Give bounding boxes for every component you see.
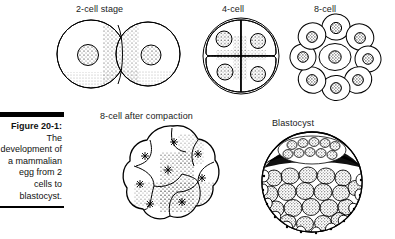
stage-label-two-cell: 2-cell stage — [76, 4, 123, 14]
illustration-blastocyst — [258, 128, 370, 236]
stage-label-blastocyst: Blastocyst — [272, 118, 314, 128]
caption-rule-bottom — [0, 206, 64, 208]
illustration-four-cell — [200, 12, 282, 100]
caption-text: Figure 20-1: The development of a mammal… — [0, 117, 64, 205]
illustration-eight-cell — [290, 12, 382, 102]
figure-number-label: Figure 20-1: — [0, 121, 62, 133]
illustration-eight-cell-after-compaction — [120, 122, 226, 230]
stage-label-eight-cell-compaction: 8-cell after compaction — [100, 111, 193, 121]
illustration-two-cell-stage — [55, 14, 183, 94]
figure-caption-block: Figure 20-1: The development of a mammal… — [0, 112, 64, 208]
figure-caption-body: The development of a mammalian egg from … — [0, 133, 62, 203]
